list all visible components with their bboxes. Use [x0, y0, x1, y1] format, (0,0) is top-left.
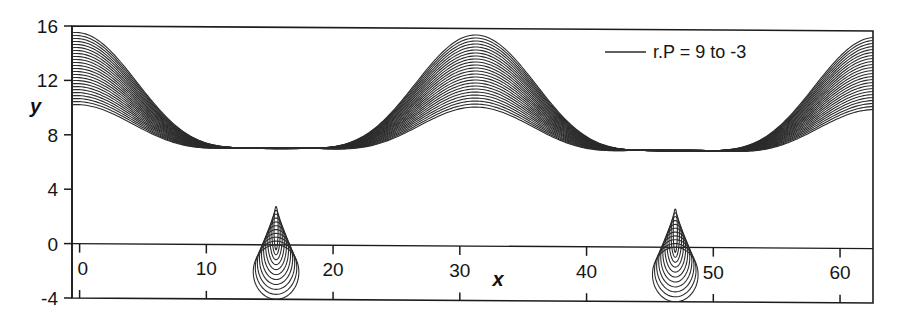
- line-chart: -40481216 0102030405060 y x r.P = 9 to -…: [0, 0, 908, 318]
- loop-cusp-1-11: [652, 247, 698, 301]
- zero-baseline: [72, 244, 873, 249]
- figure-container: -40481216 0102030405060 y x r.P = 9 to -…: [0, 0, 908, 318]
- y-tick-label: -4: [41, 288, 58, 309]
- y-axis-ticks: [64, 26, 72, 298]
- data-loops: [253, 207, 698, 302]
- y-tick-label: 0: [47, 234, 58, 255]
- curve-rp-7.5: [72, 42, 873, 152]
- y-axis-title: y: [29, 95, 42, 117]
- curve-rp-6.5: [72, 48, 873, 151]
- y-tick-label: 4: [47, 179, 58, 200]
- x-tick-label: 20: [323, 259, 344, 280]
- y-tick-label: 16: [37, 16, 58, 37]
- x-tick-label: 10: [196, 258, 217, 279]
- x-axis-title: x: [491, 268, 504, 290]
- loop-cusp-0-11: [253, 245, 299, 299]
- x-tick-label: 30: [449, 260, 470, 281]
- legend-label-rp: r.P = 9 to -3: [653, 42, 746, 62]
- x-tick-label: 60: [829, 262, 850, 283]
- x-tick-label: 40: [576, 261, 597, 282]
- legend: r.P = 9 to -3: [605, 42, 746, 62]
- y-tick-labels: -40481216: [37, 16, 59, 309]
- y-tick-label: 8: [47, 125, 58, 146]
- y-tick-label: 12: [37, 70, 58, 91]
- x-tick-labels: 0102030405060: [78, 258, 851, 284]
- x-tick-label: 0: [78, 258, 89, 279]
- data-curves: [72, 32, 873, 151]
- x-tick-label: 50: [703, 262, 724, 283]
- plot-frame: [72, 26, 873, 303]
